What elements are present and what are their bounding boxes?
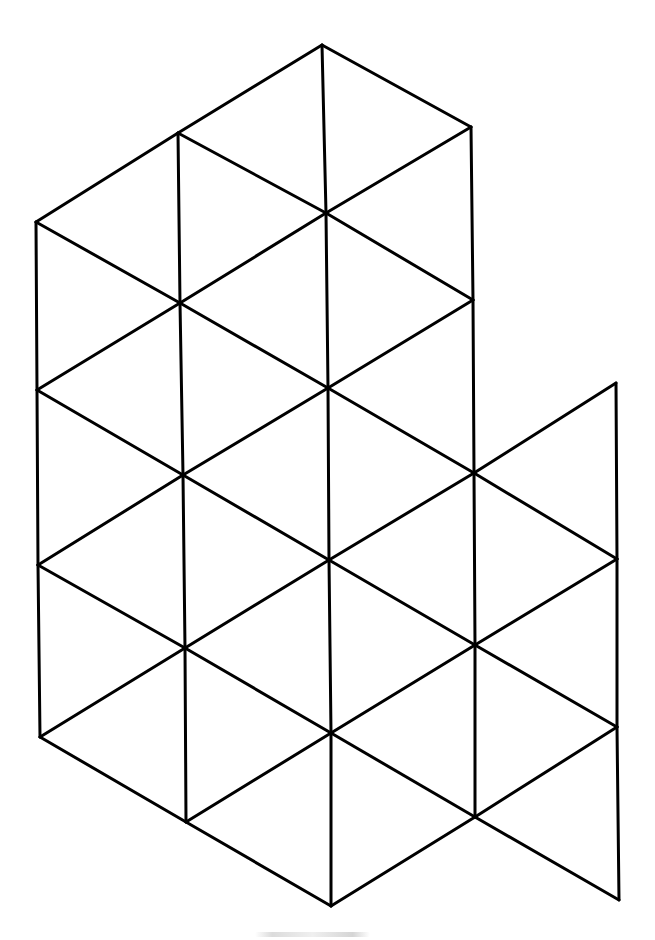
net-edge-A3-B4 — [40, 737, 186, 822]
net-edge-D3-C4 — [331, 645, 475, 733]
net-edge-B3-C4 — [185, 648, 331, 733]
net-edge-D1-D2 — [473, 300, 474, 473]
net-edge-E1-D3 — [475, 559, 617, 645]
net-edge-C0-C1 — [322, 45, 326, 213]
net-edge-A1-B2 — [37, 390, 183, 475]
net-edge-C1-C2 — [326, 213, 328, 388]
net-edge-A0-A1 — [36, 222, 37, 390]
net-edge-D2-E1 — [474, 473, 617, 559]
net-edge-B0-B1 — [178, 133, 180, 303]
net-edge-E0-E1 — [616, 383, 617, 559]
caption-faint-text — [255, 932, 370, 937]
net-edge-D1-C2 — [328, 300, 473, 388]
net-edge-B4-C5 — [186, 822, 331, 906]
net-edge-B3-A3 — [40, 648, 185, 737]
polyhedron-net-diagram — [0, 0, 655, 940]
net-edge-A0-B1 — [36, 222, 180, 303]
net-edge-D2-D3 — [474, 473, 475, 645]
net-edge-B2-A2 — [38, 475, 183, 565]
net-edge-B1-A1 — [37, 303, 180, 390]
net-edge-C1-B1 — [180, 213, 326, 303]
net-edge-D2-C3 — [329, 473, 474, 560]
net-edge-B1-C2 — [180, 303, 328, 388]
net-edge-D3-E2 — [475, 645, 617, 727]
net-edge-C3-C4 — [329, 560, 331, 733]
net-edge-D0-D1 — [471, 127, 473, 300]
net-edge-B0-C1 — [178, 133, 326, 213]
net-edge-A1-A2 — [37, 390, 38, 565]
net-edge-C2-D2 — [328, 388, 474, 473]
net-edge-C0-B0 — [178, 45, 322, 133]
net-edge-C3-D3 — [329, 560, 475, 645]
net-edge-E0-D2 — [474, 383, 616, 473]
net-edge-C0-D0 — [322, 45, 471, 127]
net-edge-A2-A3 — [38, 565, 40, 737]
net-edge-C4-B4 — [186, 733, 331, 822]
net-edge-B2-C3 — [183, 475, 329, 560]
net-edge-E2-D4 — [475, 727, 617, 817]
net-edge-C4-D4 — [331, 733, 475, 817]
net-edge-D0-C1 — [326, 127, 471, 213]
net-edge-B1-B2 — [180, 303, 183, 475]
net-edge-A2-B3 — [38, 565, 185, 648]
net-edge-B3-B4 — [185, 648, 186, 822]
net-edge-D4-C5 — [331, 817, 475, 906]
net-edge-C3-B3 — [185, 560, 329, 648]
net-edge-B2-B3 — [183, 475, 185, 648]
net-edge-C2-C3 — [328, 388, 329, 560]
net-edge-B0-A0 — [36, 133, 178, 222]
net-edge-C2-B2 — [183, 388, 328, 475]
net-edge-E2-E3 — [617, 727, 619, 900]
net-edge-C1-D1 — [326, 213, 473, 300]
net-edge-D4-E3 — [475, 817, 619, 900]
